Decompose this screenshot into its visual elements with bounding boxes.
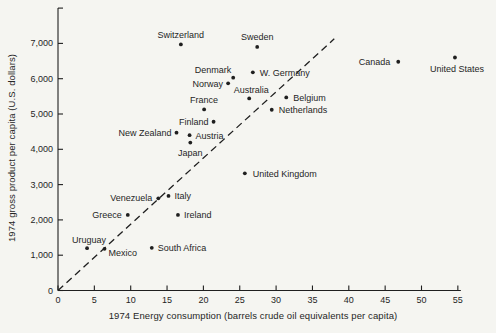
- x-tick-label: 45: [380, 295, 390, 305]
- data-point-australia: [247, 97, 251, 101]
- label-mexico: Mexico: [109, 248, 138, 258]
- data-point-united-states: [453, 56, 457, 60]
- label-netherlands: Netherlands: [279, 105, 328, 115]
- y-tick-label: 0: [48, 286, 53, 296]
- y-tick-label: 2,000: [30, 215, 53, 225]
- x-axis-title: 1974 Energy consumption (barrels crude o…: [109, 310, 398, 321]
- label-w-germany: W. Germany: [260, 68, 311, 78]
- data-point-greece: [126, 213, 130, 217]
- data-point-w-germany: [251, 70, 255, 74]
- y-tick-label: 5,000: [30, 109, 53, 119]
- label-norway: Norway: [193, 79, 224, 89]
- data-point-new-zealand: [175, 131, 179, 135]
- label-belgium: Belgium: [293, 93, 326, 103]
- label-finland: Finland: [179, 117, 209, 127]
- data-point-mexico: [103, 247, 107, 251]
- x-tick-label: 20: [198, 295, 208, 305]
- data-point-switzerland: [179, 43, 183, 47]
- x-tick-label: 15: [162, 295, 172, 305]
- data-point-denmark: [231, 76, 235, 80]
- data-point-finland: [212, 120, 216, 124]
- label-japan: Japan: [178, 148, 203, 158]
- label-united-states: United States: [430, 64, 485, 74]
- label-venezuela: Venezuela: [110, 193, 152, 203]
- label-sweden: Sweden: [241, 32, 274, 42]
- label-uruguay: Uruguay: [72, 235, 107, 245]
- x-tick-label: 25: [235, 295, 245, 305]
- x-tick-label: 50: [416, 295, 426, 305]
- label-france: France: [190, 95, 218, 105]
- data-point-belgium: [284, 96, 288, 100]
- data-point-norway: [226, 81, 230, 85]
- x-tick-label: 30: [271, 295, 281, 305]
- label-new-zealand: New Zealand: [118, 128, 171, 138]
- data-point-italy: [167, 194, 171, 198]
- y-tick-label: 4,000: [30, 144, 53, 154]
- scatter-plot: 051015202530354045505501,0002,0003,0004,…: [0, 0, 496, 333]
- y-tick-label: 7,000: [30, 38, 53, 48]
- data-point-japan: [188, 141, 192, 145]
- label-canada: Canada: [359, 57, 391, 67]
- data-point-united-kingdom: [243, 171, 247, 175]
- data-point-ireland: [176, 213, 180, 217]
- data-point-sweden: [255, 45, 259, 49]
- scatter-figure: 051015202530354045505501,0002,0003,0004,…: [0, 0, 496, 333]
- y-tick-label: 6,000: [30, 74, 53, 84]
- label-australia: Australia: [234, 85, 269, 95]
- label-united-kingdom: United Kingdom: [253, 169, 317, 179]
- x-tick-label: 35: [307, 295, 317, 305]
- label-italy: Italy: [175, 191, 192, 201]
- data-point-netherlands: [270, 108, 274, 112]
- data-point-venezuela: [156, 196, 160, 200]
- label-ireland: Ireland: [184, 210, 212, 220]
- y-tick-label: 1,000: [30, 250, 53, 260]
- y-axis-title: 1974 gross product per capita (U.S. doll…: [6, 54, 17, 242]
- label-denmark: Denmark: [195, 65, 232, 75]
- x-tick-label: 55: [453, 295, 463, 305]
- x-tick-label: 5: [92, 295, 97, 305]
- label-switzerland: Switzerland: [158, 30, 205, 40]
- x-tick-label: 40: [344, 295, 354, 305]
- data-point-south-africa: [150, 246, 154, 250]
- data-point-austria: [188, 133, 192, 137]
- label-greece: Greece: [92, 210, 122, 220]
- y-tick-label: 3,000: [30, 180, 53, 190]
- label-south-africa: South Africa: [158, 243, 207, 253]
- data-point-france: [202, 108, 206, 112]
- x-tick-label: 0: [55, 295, 60, 305]
- data-point-uruguay: [85, 246, 89, 250]
- label-austria: Austria: [196, 131, 224, 141]
- x-tick-label: 10: [126, 295, 136, 305]
- data-point-canada: [396, 60, 400, 64]
